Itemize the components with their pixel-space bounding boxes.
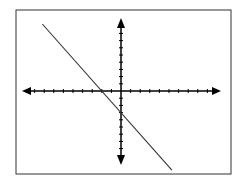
coordinate-plane: [0, 0, 233, 182]
graph-figure: [0, 0, 233, 182]
plot-frame: [16, 10, 231, 174]
